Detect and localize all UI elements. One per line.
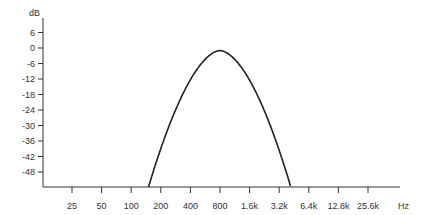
x-tick-label: 100 (124, 201, 139, 211)
x-tick-label: 6.4k (300, 201, 318, 211)
x-axis: 25501002004008001.6k3.2k6.4k12.8k25.6k H… (43, 187, 409, 211)
y-tick-label: -6 (27, 59, 35, 69)
x-tick-label: 25.6k (357, 201, 380, 211)
response-curve (149, 51, 291, 187)
y-tick-label: -24 (22, 105, 35, 115)
y-tick-label: -18 (22, 90, 35, 100)
y-tick-label: -48 (22, 167, 35, 177)
y-axis: 60-6-12-18-24-30-36-42-48 dB (22, 8, 43, 187)
y-tick-label: -12 (22, 74, 35, 84)
x-tick-label: 25 (67, 201, 77, 211)
x-tick-label: 400 (183, 201, 198, 211)
x-tick-label: 50 (97, 201, 107, 211)
x-axis-label: Hz (398, 201, 409, 211)
x-tick-label: 12.8k (327, 201, 350, 211)
x-tick-label: 200 (153, 201, 168, 211)
y-tick-label: 0 (30, 43, 35, 53)
y-tick-label: 6 (30, 28, 35, 38)
y-tick-label: -36 (22, 136, 35, 146)
x-tick-label: 800 (212, 201, 227, 211)
y-tick-label: -30 (22, 121, 35, 131)
y-axis-label: dB (29, 8, 40, 18)
x-tick-label: 3.2k (271, 201, 289, 211)
x-tick-label: 1.6k (241, 201, 259, 211)
frequency-response-chart: 60-6-12-18-24-30-36-42-48 dB 25501002004… (0, 0, 424, 215)
y-tick-label: -42 (22, 152, 35, 162)
